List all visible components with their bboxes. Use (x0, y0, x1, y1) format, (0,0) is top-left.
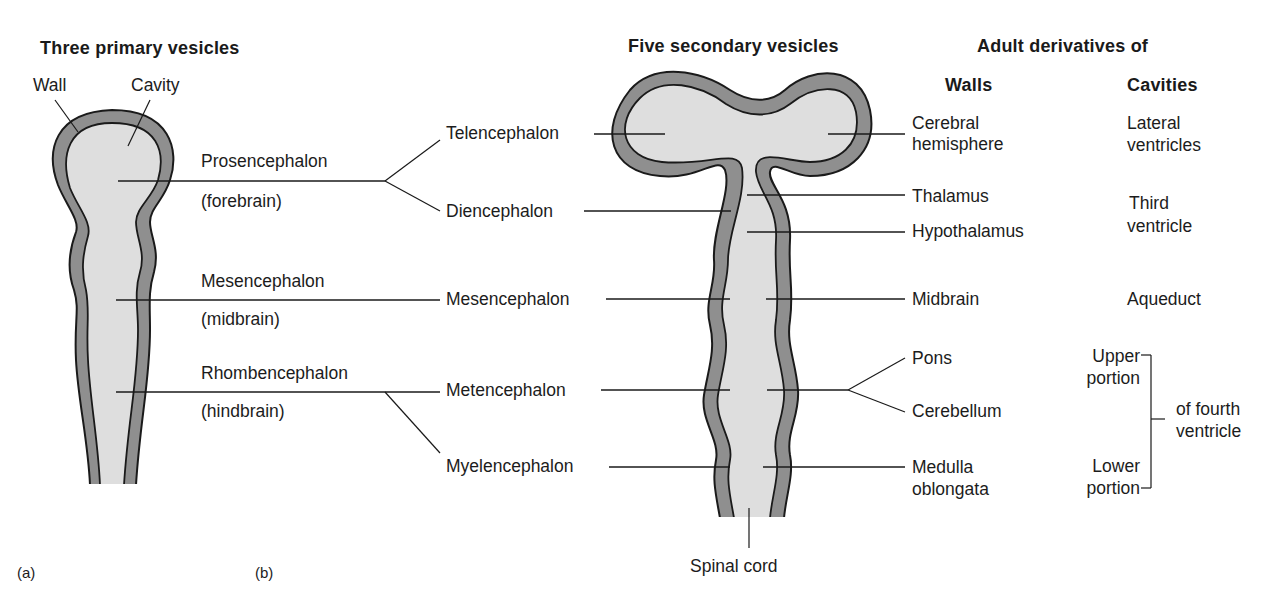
thalamus-label: Thalamus (912, 185, 989, 207)
secondary-vesicles-title: Five secondary vesicles (628, 36, 839, 57)
prosencephalon-label: Prosencephalon (201, 150, 327, 172)
mesencephalon-primary-label: Mesencephalon (201, 270, 325, 292)
myelencephalon-label: Myelencephalon (446, 455, 573, 477)
medulla-label: Medulla (912, 456, 973, 478)
cavity-label: Cavity (131, 74, 180, 96)
walls-header: Walls (945, 75, 992, 96)
cavities-header: Cavities (1127, 75, 1198, 96)
neural-tube-cavity-b (625, 85, 857, 518)
midbrain-label: (midbrain) (201, 308, 280, 330)
adult-derivatives-title: Adult derivatives of (977, 36, 1148, 57)
upper-label: Upper (1060, 345, 1140, 367)
diencephalon-label: Diencephalon (446, 200, 553, 222)
telencephalon-label: Telencephalon (446, 122, 559, 144)
panel-b-label: (b) (255, 562, 273, 584)
cerebellum-label: Cerebellum (912, 400, 1001, 422)
lateral-label: Lateral (1127, 112, 1181, 134)
of-fourth-label: of fourth (1176, 398, 1240, 420)
upper-portion-label: portion (1060, 367, 1140, 389)
secondary-vesicles-shape (612, 72, 871, 523)
lateral-ventricles-label: ventricles (1127, 134, 1201, 156)
cerebral-label: Cerebral (912, 112, 979, 134)
primary-vesicles-title: Three primary vesicles (40, 38, 240, 59)
lower-portion-label: portion (1060, 477, 1140, 499)
rhombencephalon-label: Rhombencephalon (201, 362, 348, 384)
brain-vesicles-diagram: Three primary vesicles Five secondary ve… (0, 0, 1287, 616)
fourth-ventricle-label: ventricle (1176, 420, 1241, 442)
forebrain-label: (forebrain) (201, 190, 282, 212)
lower-label: Lower (1060, 455, 1140, 477)
metencephalon-label: Metencephalon (446, 379, 566, 401)
hindbrain-label: (hindbrain) (201, 400, 285, 422)
pons-label: Pons (912, 347, 952, 369)
panel-a-label: (a) (17, 562, 35, 584)
midbrain-derivative-label: Midbrain (912, 288, 979, 310)
spinal-cord-label: Spinal cord (690, 555, 778, 577)
wall-label: Wall (33, 74, 66, 96)
third-label: Third (1129, 192, 1169, 214)
fourth-ventricle-bracket (1141, 355, 1165, 488)
hemisphere-label: hemisphere (912, 133, 1003, 155)
diagram-graphics (0, 0, 1287, 616)
third-ventricle-label: ventricle (1127, 215, 1192, 237)
aqueduct-label: Aqueduct (1127, 288, 1201, 310)
hypothalamus-label: Hypothalamus (912, 220, 1024, 242)
oblongata-label: oblongata (912, 478, 989, 500)
mesencephalon-secondary-label: Mesencephalon (446, 288, 570, 310)
